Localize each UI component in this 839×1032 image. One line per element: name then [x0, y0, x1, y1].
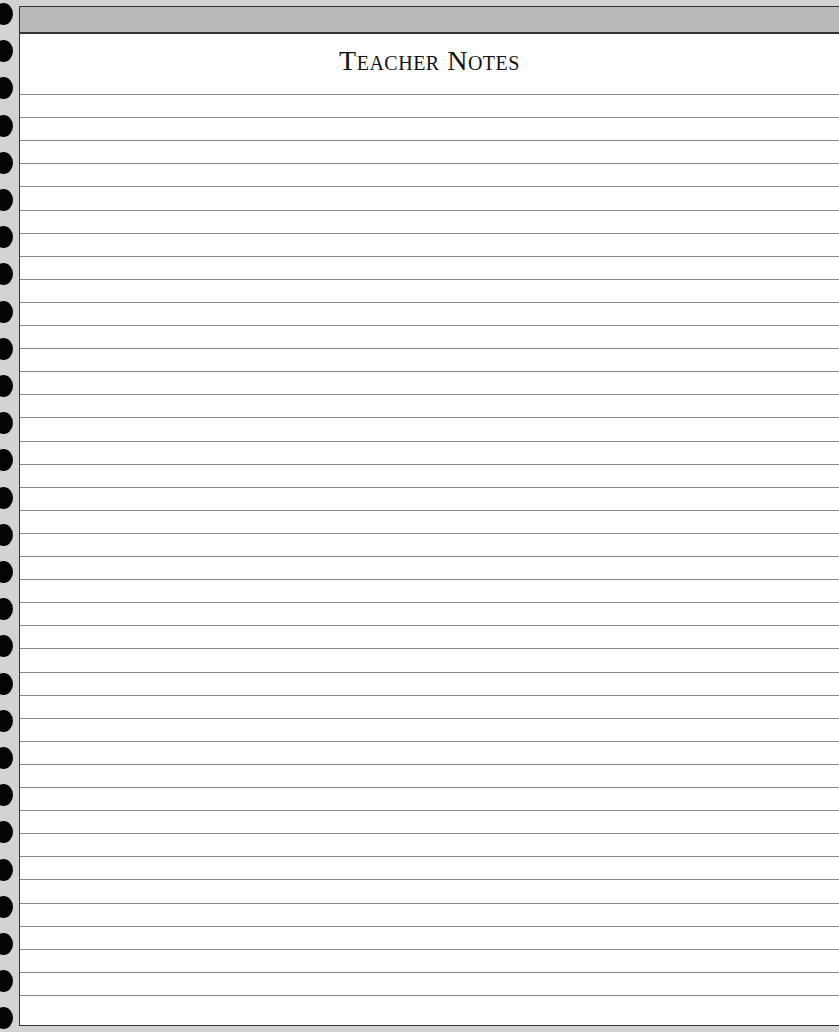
binding-hole-icon	[0, 375, 13, 397]
ruled-line	[20, 926, 839, 927]
ruled-line	[20, 487, 839, 488]
binding-hole-icon	[0, 40, 13, 62]
ruled-line	[20, 741, 839, 742]
ruled-line	[20, 764, 839, 765]
ruled-line	[20, 233, 839, 234]
ruled-line	[20, 648, 839, 649]
ruled-line	[20, 579, 839, 580]
binding-hole-icon	[0, 821, 13, 843]
binding-hole-icon	[0, 784, 13, 806]
ruled-line	[20, 787, 839, 788]
ruled-line	[20, 394, 839, 395]
binding-hole-icon	[0, 896, 13, 918]
ruled-line	[20, 464, 839, 465]
binding-hole-icon	[0, 635, 13, 657]
ruled-line	[20, 163, 839, 164]
ruled-line	[20, 672, 839, 673]
ruled-line	[20, 903, 839, 904]
ruled-line	[20, 533, 839, 534]
binding-hole-icon	[0, 77, 13, 99]
ruled-line	[20, 833, 839, 834]
binding-hole-icon	[0, 115, 13, 137]
binding-hole-icon	[0, 598, 13, 620]
ruled-line	[20, 972, 839, 973]
binding-hole-icon	[0, 710, 13, 732]
notes-page: Teacher Notes	[19, 6, 839, 1026]
ruled-line	[20, 302, 839, 303]
ruled-line	[20, 441, 839, 442]
binding-hole-icon	[0, 859, 13, 881]
binding-hole-icon	[0, 449, 13, 471]
ruled-line	[20, 695, 839, 696]
ruled-line	[20, 325, 839, 326]
page-title: Teacher Notes	[20, 45, 839, 77]
ruled-line	[20, 117, 839, 118]
ruled-line	[20, 810, 839, 811]
binding-hole-icon	[0, 189, 13, 211]
ruled-line	[20, 94, 839, 95]
ruled-line	[20, 279, 839, 280]
ruled-line	[20, 602, 839, 603]
binding-hole-icon	[0, 412, 13, 434]
ruled-line	[20, 718, 839, 719]
binding-hole-icon	[0, 933, 13, 955]
binding-hole-icon	[0, 3, 13, 25]
ruled-line	[20, 371, 839, 372]
binding-hole-icon	[0, 524, 13, 546]
ruled-line	[20, 210, 839, 211]
binding-hole-icon	[0, 561, 13, 583]
binding-hole-icon	[0, 747, 13, 769]
ruled-line	[20, 949, 839, 950]
binding-hole-icon	[0, 263, 13, 285]
ruled-line	[20, 256, 839, 257]
binding-hole-icon	[0, 487, 13, 509]
binding-hole-icon	[0, 301, 13, 323]
binding-hole-icon	[0, 226, 13, 248]
binding-hole-icon	[0, 152, 13, 174]
ruled-line	[20, 995, 839, 996]
ruled-line	[20, 348, 839, 349]
page-header-bar	[20, 7, 839, 34]
binding-hole-icon	[0, 673, 13, 695]
binding-hole-icon	[0, 970, 13, 992]
ruled-line	[20, 556, 839, 557]
ruled-line	[20, 510, 839, 511]
ruled-line	[20, 856, 839, 857]
ruled-line	[20, 625, 839, 626]
binding-hole-icon	[0, 1007, 13, 1029]
binding-hole-icon	[0, 338, 13, 360]
ruled-line	[20, 417, 839, 418]
ruled-line	[20, 140, 839, 141]
ruled-line	[20, 186, 839, 187]
spiral-binding	[0, 0, 19, 1032]
ruled-line	[20, 879, 839, 880]
